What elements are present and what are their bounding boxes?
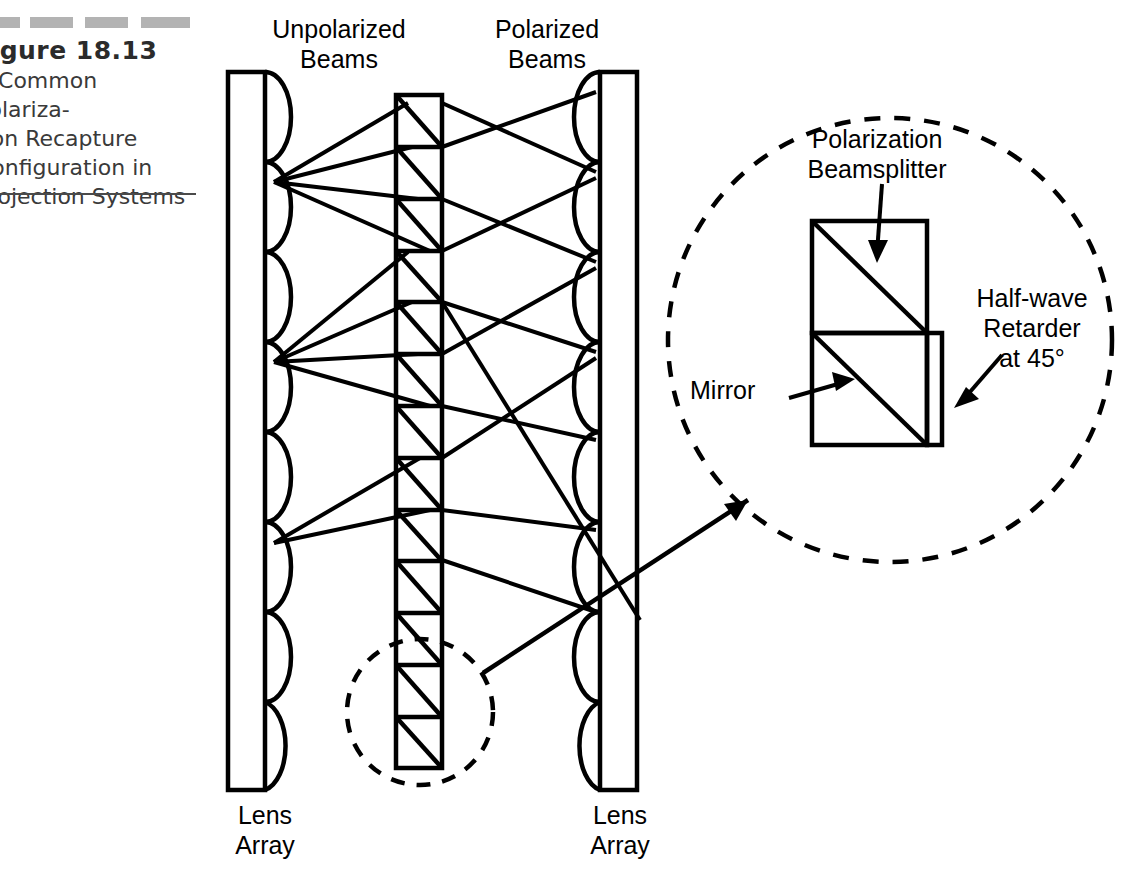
polarized-beam-rays — [442, 92, 640, 620]
pbs-diagonal — [812, 221, 927, 333]
label-left-lens-array: Lens Array — [190, 800, 340, 860]
retarder-strip — [927, 333, 942, 445]
figure-page: Figure 18.13 A Common Polariza- tion Rec… — [0, 0, 1133, 893]
callout-circle — [347, 639, 493, 785]
right-lens-array — [574, 72, 637, 790]
pbs-leader-arrow — [868, 184, 888, 263]
unpolarized-beam-rays — [274, 103, 430, 543]
mirror-diagonal — [812, 333, 927, 445]
mirror-leader-arrow — [789, 372, 855, 398]
label-half-wave-retarder: Half-wave Retarder at 45° — [942, 283, 1122, 373]
label-right-lens-array: Lens Array — [545, 800, 695, 860]
label-polarized-beams: Polarized Beams — [452, 14, 642, 74]
label-mirror: Mirror — [690, 375, 790, 405]
label-polarization-beamsplitter: Polarization Beamsplitter — [742, 124, 1012, 184]
label-unpolarized-beams: Unpolarized Beams — [244, 14, 434, 74]
